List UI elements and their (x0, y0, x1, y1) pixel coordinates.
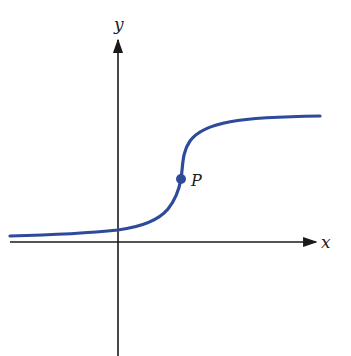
x-axis-label: x (321, 232, 331, 252)
function-graph: x y P (0, 0, 351, 356)
y-axis-label: y (113, 14, 124, 34)
curve (10, 116, 320, 236)
point-p (176, 174, 186, 184)
point-p-label: P (190, 171, 202, 190)
